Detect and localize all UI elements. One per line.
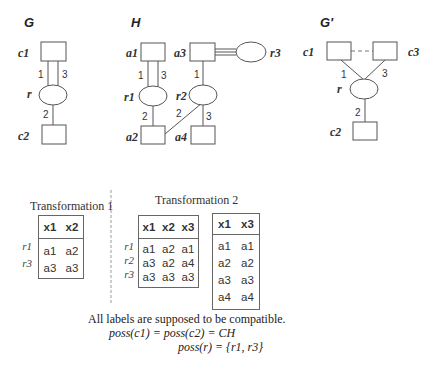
edge-label-r2-a3: 1 — [194, 69, 200, 80]
t2-row-label-r3: r3 — [120, 268, 134, 280]
table-cell: a2 — [61, 245, 83, 257]
t2-row-label-r1: r1 — [120, 240, 134, 252]
header-x3: x3 — [236, 218, 259, 230]
node-r — [350, 79, 378, 99]
poss-c-equation: poss(c1) = poss(c2) = CH — [109, 326, 235, 341]
table-header: x1 x2 — [39, 216, 83, 239]
transformation-2-table-left: x1 x2 x3 a1 a2 a1 a3 a2 a4 a3 a3 a3 — [138, 215, 199, 288]
header-x1: x1 — [139, 221, 159, 233]
graph-g: G c1 r c2 1 3 2 — [18, 15, 68, 144]
table-cell: a2 — [159, 243, 178, 255]
table-row: a2 a2 — [213, 254, 259, 271]
label-a1: a1 — [126, 46, 138, 60]
node-r — [39, 85, 67, 105]
graph-g-title: G — [24, 15, 34, 30]
label-a4: a4 — [175, 130, 187, 144]
header-x2: x2 — [61, 221, 83, 233]
edge-label-1: 1 — [341, 69, 347, 80]
table-cell: a3 — [236, 274, 259, 286]
table-header: x1 x3 — [213, 214, 259, 235]
transformation-1-table: x1 x2 a1 a2 a3 a3 — [38, 215, 84, 279]
edge-label-r2-a4: 3 — [206, 111, 212, 122]
table-row: a1 a2 — [39, 242, 83, 259]
label-a3: a3 — [174, 46, 186, 60]
table-row: a1 a1 — [213, 237, 259, 254]
table-cell: a3 — [178, 271, 198, 283]
transformation-2-caption: Transformation 2 — [155, 193, 238, 208]
graph-h: H a1 a3 r3 r1 r2 a2 a4 1 3 2 1 2 3 — [124, 15, 281, 144]
node-c2 — [353, 122, 377, 140]
node-c2 — [42, 125, 66, 144]
table-cell: a1 — [213, 240, 236, 252]
t2-row-label-r2: r2 — [120, 254, 134, 266]
compatibility-note: All labels are supposed to be compatible… — [88, 312, 286, 327]
node-a2 — [141, 126, 165, 144]
graph-g-prime: G' c1 c3 r c2 1 3 2 — [303, 15, 419, 140]
transformation-2-table-right: x1 x3 a1 a1 a2 a2 a3 a3 a4 a4 — [212, 213, 260, 310]
label-c1: c1 — [303, 45, 314, 59]
label-r1: r1 — [124, 90, 135, 104]
header-x3: x3 — [178, 221, 198, 233]
table-cell: a4 — [236, 291, 259, 303]
label-a2: a2 — [126, 130, 138, 144]
table-cell: a2 — [213, 257, 236, 269]
edge-label-2: 2 — [355, 107, 361, 118]
table-cell: a4 — [213, 291, 236, 303]
graph-g-prime-title: G' — [320, 15, 334, 30]
poss-r-equation: poss(r) = {r1, r3} — [178, 340, 263, 355]
edge-label-r1-a1-1: 1 — [138, 70, 144, 81]
table-row: a1 a2 a1 — [139, 242, 198, 256]
table-cell: a1 — [178, 243, 198, 255]
table-row: a4 a4 — [213, 288, 259, 305]
edge-label-3: 3 — [382, 68, 388, 79]
label-c1: c1 — [18, 46, 29, 60]
label-r2: r2 — [176, 89, 187, 103]
table-cell: a1 — [139, 243, 159, 255]
edge-label-r1-a1-3: 3 — [161, 70, 167, 81]
header-x1: x1 — [39, 221, 61, 233]
node-c3 — [373, 42, 397, 60]
table-row: a3 a3 — [213, 271, 259, 288]
table-cell: a3 — [159, 271, 178, 283]
node-a3 — [190, 43, 215, 61]
table-cell: a3 — [61, 262, 83, 274]
table-cell: a3 — [213, 274, 236, 286]
label-r: r — [27, 87, 32, 101]
header-x2: x2 — [159, 221, 178, 233]
table-cell: a1 — [39, 245, 61, 257]
label-c2: c2 — [330, 125, 341, 139]
node-c1 — [327, 42, 351, 60]
table-cell: a3 — [139, 257, 159, 269]
table-row: a3 a3 — [39, 259, 83, 276]
table-cell: a2 — [159, 257, 178, 269]
table-row: a3 a2 a4 — [139, 256, 198, 270]
label-r: r — [337, 82, 342, 96]
table-cell: a1 — [236, 240, 259, 252]
table-row: a3 a3 a3 — [139, 270, 198, 284]
label-c3: c3 — [408, 45, 419, 59]
table-cell: a2 — [236, 257, 259, 269]
t1-row-label-r3: r3 — [16, 257, 32, 269]
edge-label-1: 1 — [38, 69, 44, 80]
header-x1: x1 — [213, 218, 236, 230]
edge-label-2: 2 — [43, 109, 49, 120]
transformation-1-caption: Transformation 1 — [30, 199, 113, 214]
table-header: x1 x2 x3 — [139, 216, 198, 239]
table-cell: a3 — [39, 262, 61, 274]
edge-label-r2-a2: 2 — [176, 108, 182, 119]
edge-label-3: 3 — [62, 69, 68, 80]
node-a4 — [191, 126, 215, 144]
table-cell: a3 — [139, 271, 159, 283]
node-c1 — [41, 42, 66, 61]
table-cell: a4 — [178, 257, 198, 269]
graph-h-title: H — [131, 15, 141, 30]
node-r2 — [189, 85, 217, 105]
node-r3 — [236, 42, 266, 62]
node-a1 — [141, 43, 165, 61]
edge-label-r1-a2: 2 — [142, 111, 148, 122]
t1-row-label-r1: r1 — [16, 240, 32, 252]
node-r1 — [139, 86, 167, 106]
label-r3: r3 — [270, 46, 281, 60]
label-c2: c2 — [18, 129, 29, 143]
